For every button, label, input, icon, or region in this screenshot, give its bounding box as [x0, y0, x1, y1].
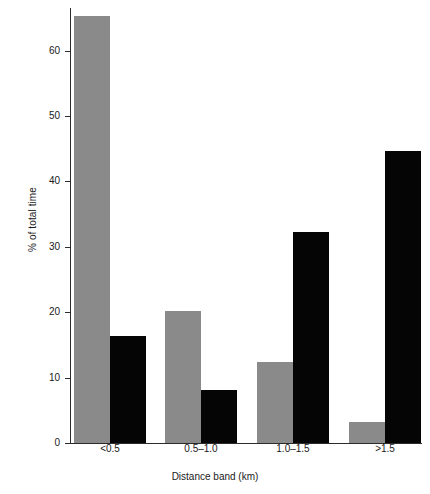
x-category-label-2: 1.0–1.5	[253, 443, 333, 455]
y-tick-20	[65, 312, 71, 313]
bar-black-series-3	[385, 151, 421, 443]
y-tick-label-30: 30	[22, 242, 60, 252]
y-tick-label-60: 60	[22, 46, 60, 56]
y-tick-label-40: 40	[22, 176, 60, 186]
y-tick-label-20: 20	[22, 307, 60, 317]
y-axis-title: % of total time	[27, 140, 38, 300]
y-tick-30	[65, 247, 71, 248]
bar-grey-series-3	[349, 422, 385, 443]
plot-area: 0102030405060	[70, 8, 422, 443]
bar-black-series-1	[201, 390, 237, 443]
y-tick-label-50: 50	[22, 111, 60, 121]
y-tick-60	[65, 51, 71, 52]
chart-figure: % of total time 0102030405060 <0.50.5–1.…	[0, 0, 430, 494]
bar-grey-series-0	[74, 16, 110, 443]
y-tick-40	[65, 181, 71, 182]
y-tick-label-0: 0	[22, 438, 60, 448]
x-category-label-3: >1.5	[345, 443, 425, 455]
x-axis-title: Distance band (km)	[0, 471, 430, 482]
y-tick-50	[65, 116, 71, 117]
y-tick-label-10: 10	[22, 373, 60, 383]
x-category-label-1: 0.5–1.0	[161, 443, 241, 455]
bar-grey-series-1	[165, 311, 201, 443]
bar-black-series-0	[110, 336, 146, 443]
bar-black-series-2	[293, 232, 329, 443]
y-tick-10	[65, 378, 71, 379]
x-category-label-0: <0.5	[70, 443, 150, 455]
bar-grey-series-2	[257, 362, 293, 443]
